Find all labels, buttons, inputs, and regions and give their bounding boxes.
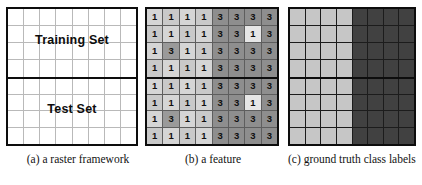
feature-cell: 3	[229, 79, 245, 95]
caption-panel-c: (c) ground truth class labels	[288, 152, 416, 166]
feature-cell: 1	[180, 9, 196, 26]
class-label-cell	[384, 95, 400, 111]
feature-cell: 1	[180, 128, 196, 144]
panel-ground-truth	[288, 7, 416, 146]
class-label-cell	[321, 128, 337, 144]
class-label-row	[290, 9, 414, 26]
feature-cell: 1	[196, 60, 212, 77]
class-label-cell	[368, 60, 384, 77]
feature-row: 11113313	[147, 95, 277, 111]
raster-row	[8, 60, 136, 77]
class-label-cell	[337, 79, 353, 95]
raster-cell	[73, 128, 89, 144]
ground-truth-training-half	[290, 9, 414, 77]
class-label-cell	[306, 43, 322, 60]
feature-training-half: 11113333111133131311333311113333	[147, 9, 277, 77]
feature-cell: 1	[147, 111, 163, 127]
class-label-cell	[306, 9, 322, 26]
raster-cell	[89, 60, 105, 77]
class-label-cell	[290, 43, 306, 60]
feature-cell: 3	[213, 95, 229, 111]
feature-cell: 3	[229, 111, 245, 127]
figure-raster-framework: Training Set Test Set 111133331111331313…	[0, 0, 422, 185]
raster-cell	[8, 128, 24, 144]
feature-row: 13113333	[147, 111, 277, 127]
class-label-row	[290, 26, 414, 43]
raster-cell	[56, 60, 72, 77]
class-label-row	[290, 111, 414, 127]
class-label-cell	[290, 9, 306, 26]
feature-cell: 1	[180, 26, 196, 43]
feature-cell: 3	[213, 9, 229, 26]
class-label-cell	[306, 111, 322, 127]
class-label-cell	[399, 9, 414, 26]
feature-cell: 3	[213, 43, 229, 60]
class-label-cell	[321, 79, 337, 95]
class-label-cell	[353, 128, 369, 144]
class-label-cell	[399, 26, 414, 43]
class-label-cell	[353, 9, 369, 26]
feature-cell: 3	[262, 79, 277, 95]
raster-row	[8, 128, 136, 144]
feature-cell: 3	[229, 43, 245, 60]
raster-cell	[8, 79, 24, 95]
raster-cell	[121, 9, 136, 26]
class-label-cell	[368, 111, 384, 127]
class-label-row	[290, 43, 414, 60]
feature-cell: 3	[213, 128, 229, 144]
raster-cell	[56, 128, 72, 144]
feature-row: 11113333	[147, 128, 277, 144]
class-label-cell	[384, 9, 400, 26]
class-label-cell	[353, 79, 369, 95]
class-label-cell	[306, 79, 322, 95]
feature-cell: 3	[245, 79, 261, 95]
class-label-cell	[384, 43, 400, 60]
class-label-cell	[353, 26, 369, 43]
class-label-cell	[384, 60, 400, 77]
class-label-cell	[353, 95, 369, 111]
raster-cell	[105, 128, 121, 144]
raster-cell	[40, 79, 56, 95]
feature-cell: 1	[147, 95, 163, 111]
feature-cell: 3	[245, 43, 261, 60]
raster-cell	[105, 60, 121, 77]
class-label-cell	[290, 128, 306, 144]
panel-feature: 11113333111133131311333311113333 1111333…	[145, 7, 279, 146]
feature-cell: 3	[213, 79, 229, 95]
class-label-row	[290, 79, 414, 95]
class-label-cell	[337, 111, 353, 127]
panel-raster-framework: Training Set Test Set	[6, 7, 138, 146]
raster-cell	[73, 9, 89, 26]
class-label-cell	[306, 60, 322, 77]
feature-cell: 3	[213, 111, 229, 127]
class-label-cell	[368, 128, 384, 144]
feature-cell: 3	[262, 60, 277, 77]
class-label-cell	[306, 26, 322, 43]
feature-test-half: 11113333111133131311333311113333	[147, 77, 277, 145]
class-label-cell	[399, 60, 414, 77]
feature-cell: 1	[147, 43, 163, 60]
feature-cell: 1	[245, 26, 261, 43]
feature-row: 11113313	[147, 26, 277, 43]
feature-cell: 3	[245, 60, 261, 77]
raster-cell	[121, 79, 136, 95]
class-label-cell	[353, 111, 369, 127]
class-label-cell	[368, 9, 384, 26]
raster-cell	[24, 9, 40, 26]
class-label-row	[290, 95, 414, 111]
feature-cell: 1	[163, 60, 179, 77]
ground-truth-test-half	[290, 77, 414, 145]
feature-cell: 1	[147, 79, 163, 95]
class-label-cell	[353, 43, 369, 60]
class-label-cell	[290, 95, 306, 111]
raster-grid-outline	[6, 7, 138, 146]
raster-row	[8, 79, 136, 95]
class-label-cell	[290, 26, 306, 43]
raster-cell	[24, 128, 40, 144]
feature-cell: 1	[196, 128, 212, 144]
class-label-cell	[337, 26, 353, 43]
feature-cell: 1	[180, 79, 196, 95]
feature-row: 13113333	[147, 43, 277, 60]
caption-panel-a: (a) a raster framework	[14, 152, 142, 166]
feature-cell: 1	[180, 43, 196, 60]
